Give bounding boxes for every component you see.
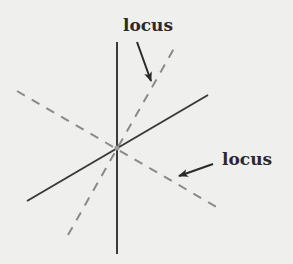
intersection-point [115, 146, 120, 151]
arrow-right [179, 164, 213, 176]
arrow-top [137, 42, 151, 81]
dashed-locus-line-steep [68, 45, 176, 235]
locus-label-right: locus [222, 149, 272, 169]
locus-diagram: locus locus [0, 0, 293, 264]
locus-label-top: locus [123, 15, 173, 35]
